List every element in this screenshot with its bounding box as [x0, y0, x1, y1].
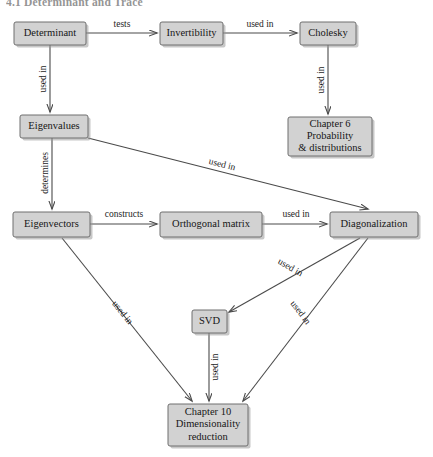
node-chapter10[interactable]: Chapter 10Dimensionalityreduction: [168, 404, 251, 449]
edge-label: used in: [282, 209, 309, 219]
node-cholesky[interactable]: Cholesky: [300, 22, 359, 48]
edge-eigenvectors-orthogonal: constructs: [90, 209, 157, 224]
node-label: Chapter 6: [309, 118, 350, 129]
node-label: Invertibility: [166, 27, 217, 38]
edge-label: used in: [210, 353, 220, 380]
node-eigenvectors[interactable]: Eigenvectors: [13, 212, 93, 240]
edge-label: used in: [288, 299, 312, 327]
node-svd[interactable]: SVD: [192, 310, 230, 336]
edge-eigenvalues-eigenvectors: determines: [40, 138, 52, 209]
edge-label: used in: [38, 65, 48, 92]
node-diagonalization[interactable]: Diagonalization: [330, 212, 421, 240]
edge-cholesky-chapter6: used in: [316, 45, 328, 114]
node-label: Diagonalization: [340, 218, 408, 229]
edge-eigenvectors-chapter10: used in: [62, 238, 192, 401]
node-label: reduction: [188, 431, 228, 442]
edge-diagonalization-chapter10: used in: [243, 238, 368, 401]
edge-label: determines: [40, 152, 50, 194]
edges-layer: testsused inused inused indeterminesused…: [38, 19, 368, 401]
edge-label: used in: [276, 256, 305, 278]
node-label: Eigenvalues: [28, 120, 79, 131]
node-invertibility[interactable]: Invertibility: [160, 22, 226, 48]
node-label: Dimensionality: [176, 418, 241, 429]
edge-svd-chapter10: used in: [209, 333, 220, 401]
node-label: Orthogonal matrix: [172, 218, 251, 229]
node-label: Determinant: [24, 27, 77, 38]
node-label: SVD: [199, 315, 220, 326]
edge-invertibility-cholesky: used in: [223, 19, 297, 33]
edge-determinant-invertibility: tests: [86, 19, 157, 33]
node-label: Chapter 10: [185, 406, 231, 417]
node-determinant[interactable]: Determinant: [14, 22, 89, 48]
edge-label: used in: [246, 19, 273, 29]
edge-label: tests: [114, 19, 131, 29]
node-label: Eigenvectors: [24, 218, 79, 229]
node-chapter6[interactable]: Chapter 6Probability& distributions: [288, 117, 375, 159]
node-label: & distributions: [298, 142, 361, 153]
edge-label: constructs: [105, 209, 144, 219]
edge-orthogonal-diagonalization: used in: [262, 209, 327, 224]
node-label: Cholesky: [308, 27, 348, 38]
edge-label: used in: [316, 66, 326, 93]
edge-label: used in: [110, 299, 135, 327]
edge-determinant-eigenvalues: used in: [38, 45, 50, 112]
node-label: Probability: [307, 130, 354, 141]
node-orthogonal[interactable]: Orthogonal matrix: [160, 212, 265, 240]
linear-algebra-concept-diagram: testsused inused inused indeterminesused…: [0, 0, 433, 457]
nodes-layer: DeterminantInvertibilityCholeskyChapter …: [13, 22, 421, 449]
node-eigenvalues[interactable]: Eigenvalues: [20, 115, 91, 141]
